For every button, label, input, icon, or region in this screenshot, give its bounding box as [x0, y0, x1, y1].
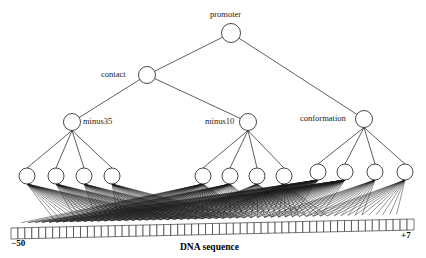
dna-sequence-cell	[365, 220, 372, 231]
tree-edges	[27, 33, 405, 168]
dna-sequence-cell	[338, 221, 345, 232]
dna-sequence-cell	[379, 220, 386, 231]
dna-sequence-cell	[136, 225, 143, 236]
dna-sequence-cell	[178, 224, 185, 235]
dna-sequence-cell	[275, 222, 282, 233]
node-label-minus10: minus10	[205, 117, 234, 126]
dna-sequence-cell	[185, 224, 192, 235]
dna-sequence-cell	[213, 223, 220, 234]
dna-sequence-cell	[268, 222, 275, 233]
dna-sequence-cell	[296, 221, 303, 232]
dna-sequence-cell	[164, 224, 171, 235]
dna-sequence-cell	[254, 222, 261, 233]
node-label-conformation: conformation	[300, 114, 346, 123]
figure-caption: DNA sequence	[180, 243, 239, 253]
dna-sequence-cell	[407, 219, 414, 230]
dna-sequence-cell	[53, 227, 60, 238]
dna-sequence-cell	[80, 226, 87, 237]
dna-sequence-cell	[87, 226, 94, 237]
node-label-contact: contact	[101, 70, 126, 79]
dna-sequence-cell	[261, 222, 268, 233]
dna-sequence-cell	[32, 227, 39, 238]
dna-sequence-cell	[303, 221, 310, 232]
dna-sequence-cell	[324, 221, 331, 232]
dna-sequence-bar	[11, 219, 414, 239]
network-graph-svg	[0, 0, 426, 258]
dna-sequence-cell	[372, 220, 379, 231]
dna-sequence-cell	[393, 219, 400, 230]
dna-sequence-cell	[157, 225, 164, 236]
dna-sequence-cell	[94, 226, 101, 237]
node-label-minus35: minus35	[83, 117, 112, 126]
dna-sequence-cell	[219, 223, 226, 234]
leaf-node-minus10_children-1	[222, 168, 238, 184]
dna-sequence-cell	[351, 220, 358, 231]
node-root	[222, 24, 241, 43]
dna-sequence-cell	[310, 221, 317, 232]
sequence-end-label: +7	[401, 231, 411, 240]
dna-sequence-cell	[282, 222, 289, 233]
leaf-node-conformation_children-3	[397, 164, 413, 180]
node-label-promoter: promoter	[210, 10, 241, 19]
dna-sequence-cell	[386, 219, 393, 230]
node-conformation	[356, 111, 373, 128]
leaf-node-minus10_children-3	[276, 168, 292, 184]
leaf-node-minus35_children-3	[104, 168, 120, 184]
dna-sequence-cell	[67, 227, 74, 238]
leaf-node-minus10_children-2	[249, 168, 265, 184]
node-minus10	[240, 114, 257, 131]
dna-sequence-cell	[233, 223, 240, 234]
dna-sequence-cell	[129, 225, 136, 236]
dna-sequence-cell	[25, 228, 32, 239]
dna-sequence-cell	[192, 224, 199, 235]
dna-sequence-cell	[150, 225, 157, 236]
dna-sequence-cell	[289, 222, 296, 233]
dna-sequence-cell	[143, 225, 150, 236]
dna-sequence-cell	[46, 227, 53, 238]
dna-sequence-cell	[317, 221, 324, 232]
dna-sequence-cell	[331, 221, 338, 232]
dna-sequence-cell	[206, 224, 213, 235]
leaf-node-conformation_children-0	[310, 164, 326, 180]
dna-sequence-cell	[400, 219, 407, 230]
dna-sequence-cell	[115, 226, 122, 237]
node-minus35	[64, 114, 81, 131]
dna-sequence-cell	[171, 224, 178, 235]
leaf-node-minus35_children-1	[48, 168, 64, 184]
leaf-node-conformation_children-1	[337, 164, 353, 180]
leaf-node-minus35_children-0	[19, 168, 35, 184]
dna-sequence-cell	[240, 223, 247, 234]
node-contact	[139, 67, 156, 84]
dna-sequence-cell	[345, 220, 352, 231]
dna-sequence-cell	[101, 226, 108, 237]
dna-sequence-cell	[358, 220, 365, 231]
network-nodes	[19, 24, 413, 185]
dna-sequence-cell	[226, 223, 233, 234]
leaf-node-minus10_children-0	[195, 168, 211, 184]
dna-sequence-cell	[122, 225, 129, 236]
dna-sequence-cell	[39, 227, 46, 238]
dna-sequence-cell	[108, 226, 115, 237]
dna-sequence-cell	[247, 223, 254, 234]
dna-sequence-cell	[74, 226, 81, 237]
bayesian-network-figure: promoter contact minus35 minus10 conform…	[0, 0, 426, 258]
dna-sequence-cell	[60, 227, 67, 238]
dna-sequence-cell	[199, 224, 206, 235]
leaf-node-minus35_children-2	[76, 168, 92, 184]
sequence-start-label: −50	[11, 239, 25, 248]
leaf-node-conformation_children-2	[367, 164, 383, 180]
leaf-to-sequence-edges	[21, 180, 405, 223]
